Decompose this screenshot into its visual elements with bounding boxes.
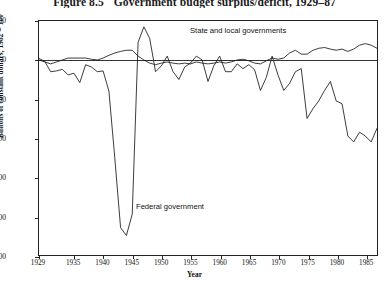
y-tick-label: -400 xyxy=(0,212,6,221)
series-lines xyxy=(39,21,377,255)
y-tick-label: 100 xyxy=(0,16,6,25)
series-line-federal-government xyxy=(39,27,377,236)
x-tick-label: 1955 xyxy=(183,259,197,267)
series-line-state-and-local-governments xyxy=(39,44,377,65)
figure-number: Figure 8.5 xyxy=(53,0,104,8)
x-axis-label: Year xyxy=(0,270,389,279)
x-tick-label: 1985 xyxy=(359,259,373,267)
figure-title: Figure 8.5Government budget surplus/defi… xyxy=(0,0,389,8)
x-tick-label: 1935 xyxy=(66,259,80,267)
y-tick-mark xyxy=(35,218,39,219)
y-tick-label: 0 xyxy=(0,55,6,64)
y-tick-mark xyxy=(35,100,39,101)
y-tick-mark xyxy=(35,60,39,61)
x-tick-label: 1975 xyxy=(300,259,314,267)
figure-container: Figure 8.5Government budget surplus/defi… xyxy=(0,0,389,287)
y-tick-label: -100 xyxy=(0,94,6,103)
x-tick-label: 1970 xyxy=(271,259,285,267)
y-tick-mark xyxy=(35,139,39,140)
x-tick-label: 1929 xyxy=(31,259,45,267)
annotation-state-and-local: State and local governments xyxy=(190,26,286,35)
x-tick-label: 1950 xyxy=(154,259,168,267)
x-tick-label: 1980 xyxy=(330,259,344,267)
y-tick-label: -300 xyxy=(0,173,6,182)
x-tick-label: 1945 xyxy=(125,259,139,267)
annotation-federal: Federal government xyxy=(136,202,204,211)
figure-title-text: Government budget surplus/deficit, 1929–… xyxy=(114,0,336,8)
y-tick-label: -200 xyxy=(0,134,6,143)
y-tick-mark xyxy=(35,21,39,22)
x-tick-label: 1965 xyxy=(242,259,256,267)
x-tick-label: 1940 xyxy=(95,259,109,267)
y-tick-label: -500 xyxy=(0,252,6,261)
y-tick-mark xyxy=(35,178,39,179)
x-tick-label: 1960 xyxy=(213,259,227,267)
plot-area xyxy=(38,20,378,256)
y-axis-label: Billions of constant dollars, 1982 = 100 xyxy=(0,14,5,138)
